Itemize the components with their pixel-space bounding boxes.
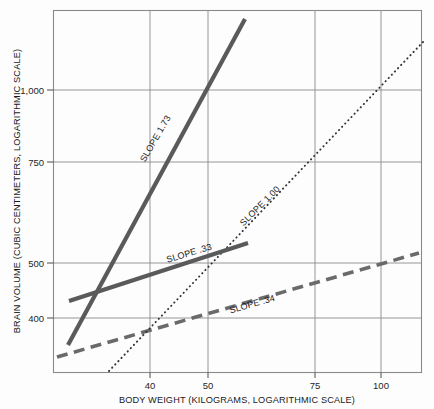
x-tick-label-100: 100 [373,380,389,391]
annotation-slope-34: SLOPE .34 [228,293,276,316]
chart-canvas: 1,000 750 500 400 40 50 75 100 BODY WEIG… [0,0,434,409]
horizontal-gridlines [54,90,422,318]
x-tick-label-40: 40 [145,380,156,391]
y-tick-label-500: 500 [28,258,44,269]
y-tickmarks [47,90,54,318]
x-tick-label-75: 75 [310,380,321,391]
y-tick-label-750: 750 [28,157,44,168]
series-annotations: SLOPE 1.73 SLOPE .33 SLOPE 1.00 SLOPE .3… [138,113,282,315]
x-axis-title: BODY WEIGHT (KILOGRAMS, LOGARITHMIC SCAL… [119,395,355,405]
y-axis-title: BRAIN VOLUME (CUBIC CENTIMETERS, LOGARIT… [12,49,22,333]
x-tickmarks [150,373,381,379]
brain-volume-body-weight-chart: 1,000 750 500 400 40 50 75 100 BODY WEIG… [0,0,434,409]
y-tick-label-1000: 1,000 [20,85,44,96]
annotation-slope-100: SLOPE 1.00 [238,184,282,228]
series-line-slope-173 [68,19,245,345]
y-tick-label-400: 400 [28,313,44,324]
annotation-slope-173: SLOPE 1.73 [138,113,173,163]
x-tick-label-50: 50 [203,380,214,391]
